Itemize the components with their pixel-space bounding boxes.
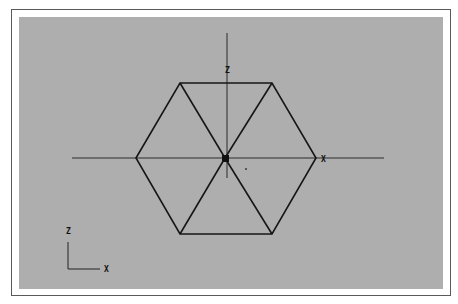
z-axis-label: Z [225, 66, 230, 75]
pivot-point-icon[interactable] [222, 155, 229, 162]
scene-canvas[interactable]: Z X Z X [0, 0, 458, 304]
axis-gizmo-icon [68, 242, 100, 269]
gizmo-x-label: X [104, 265, 109, 274]
gizmo-z-label: Z [66, 227, 71, 236]
vertex-dot [245, 168, 247, 170]
x-axis-label: X [321, 155, 326, 164]
